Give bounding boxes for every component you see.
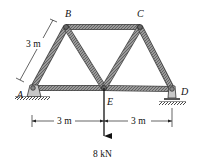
label-E: E bbox=[106, 96, 113, 107]
label-A: A bbox=[16, 89, 24, 100]
label-D: D bbox=[180, 86, 189, 97]
pin-C bbox=[138, 25, 143, 30]
dimension-span: 3 m 3 m bbox=[32, 108, 172, 127]
dimension-AB-label: 3 m bbox=[26, 39, 41, 49]
dimension-span-left-label: 3 m bbox=[57, 116, 72, 126]
truss-members bbox=[33, 27, 172, 89]
label-C: C bbox=[137, 8, 144, 19]
joint-pins bbox=[64, 25, 143, 91]
truss-diagram: B C A E D 3 m 3 m 3 m 8 kN bbox=[0, 0, 198, 166]
dimension-span-right-label: 3 m bbox=[131, 116, 146, 126]
label-B: B bbox=[65, 8, 71, 19]
pin-B bbox=[64, 25, 69, 30]
load-label: 8 kN bbox=[93, 149, 112, 159]
